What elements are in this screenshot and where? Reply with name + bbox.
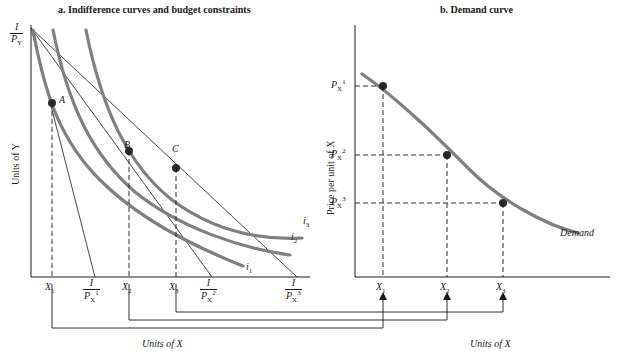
curve-label-i2: i2 (291, 231, 297, 245)
demand-curve (362, 74, 578, 233)
panel-b-x-axis-label: Units of X (470, 338, 511, 349)
y-intercept-denominator: PY (10, 34, 23, 47)
point-label-B: B (124, 139, 130, 150)
connector-lines (52, 284, 503, 328)
point-label-A: A (59, 94, 65, 105)
panel-a-axes (31, 25, 310, 277)
indifference-curves (33, 30, 302, 266)
x-tick-label-a-x3: X3 (169, 281, 179, 295)
indifference-curve-i1 (33, 30, 243, 266)
panel-a-dashed-lines (52, 103, 176, 277)
curve-label-i1: i1 (246, 261, 252, 275)
budget-x-intercept-2: I PX2 (200, 278, 217, 304)
x-tick-label-a-x1: X1 (45, 281, 55, 295)
point-label-C: C (172, 143, 179, 154)
budget-x-intercept-3: I PX3 (285, 278, 302, 304)
y-tick-label-b-p2: PX2 (331, 147, 346, 162)
panel-b-axes (355, 25, 610, 277)
budget-constraints (31, 28, 297, 277)
figure-container: a. Indifference curves and budget constr… (0, 0, 620, 351)
y-tick-label-b-p1: PX1 (331, 78, 346, 93)
x-tick-label-b-x1: X1 (376, 281, 386, 295)
panel-a-x-axis-label: Units of X (142, 338, 183, 349)
curve-label-i3: i3 (303, 215, 309, 229)
indifference-curve-i3 (86, 30, 302, 238)
x-tick-label-a-x2: X2 (122, 281, 132, 295)
x-tick-label-b-x2: X2 (440, 281, 450, 295)
y-tick-label-b-p3: PX3 (331, 195, 346, 210)
demand-curve-label: Demand (560, 227, 594, 238)
y-intercept-label-a: I PY (10, 22, 23, 47)
budget-x-intercept-1: I PX1 (83, 278, 100, 304)
x-tick-label-b-x3: X3 (496, 281, 506, 295)
panel-a-y-axis-label: Units of Y (10, 143, 21, 185)
